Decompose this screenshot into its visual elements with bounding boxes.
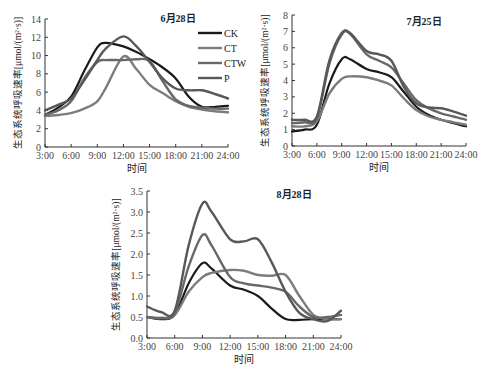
x-tick-label: 12:00 xyxy=(355,149,378,160)
x-tick-label: 9:00 xyxy=(333,149,351,160)
y-tick-label: 2 xyxy=(36,123,41,134)
y-tick-label: 1.5 xyxy=(131,270,144,281)
x-tick-label: 15:00 xyxy=(246,341,269,352)
y-axis-label: 生态系统呼吸速率[μmol/(m²·s)] xyxy=(110,198,122,330)
x-tick-label: 18:00 xyxy=(164,150,187,161)
y-tick-label: 2.0 xyxy=(131,249,144,260)
x-tick-label: 21:00 xyxy=(430,149,453,160)
x-tick-label: 6:00 xyxy=(308,149,326,160)
x-axis-label: 时间 xyxy=(127,162,147,174)
x-tick-label: 18:00 xyxy=(274,341,297,352)
x-tick-label: 9:00 xyxy=(88,150,106,161)
x-tick-label: 15:00 xyxy=(380,149,403,160)
y-tick-label: 4 xyxy=(36,105,41,116)
chart-2: 0123456783:006:009:0012:0015:0018:0021:0… xyxy=(259,10,477,174)
legend-label-ct: CT xyxy=(224,43,237,54)
y-tick-label: 3.5 xyxy=(131,186,144,197)
x-axis-label: 时间 xyxy=(234,353,254,365)
x-tick-label: 6:00 xyxy=(62,150,80,161)
y-tick-label: 12 xyxy=(31,32,41,43)
chart-date-title: 6月28日 xyxy=(161,13,196,24)
y-tick-label: 14 xyxy=(31,14,41,25)
y-tick-label: 3.0 xyxy=(131,207,144,218)
x-tick-label: 9:00 xyxy=(194,341,212,352)
x-tick-label: 3:00 xyxy=(138,341,156,352)
x-tick-label: 3:00 xyxy=(283,149,301,160)
x-tick-label: 12:00 xyxy=(219,341,242,352)
x-tick-label: 3:00 xyxy=(36,150,54,161)
legend-label-ck: CK xyxy=(224,28,239,39)
y-tick-label: 1 xyxy=(283,124,288,135)
x-tick-label: 12:00 xyxy=(112,150,135,161)
legend-label-p: P xyxy=(224,73,230,84)
y-tick-label: 2 xyxy=(283,108,288,119)
y-tick-label: 10 xyxy=(31,50,41,61)
x-tick-label: 6:00 xyxy=(166,341,184,352)
x-tick-label: 21:00 xyxy=(190,150,213,161)
series-line-ct xyxy=(292,76,466,126)
y-tick-label: 8 xyxy=(283,10,288,21)
y-tick-label: 6 xyxy=(283,42,288,53)
y-axis-label: 生态系统呼吸速率[μmol/(m²·s)] xyxy=(259,14,271,146)
x-tick-label: 21:00 xyxy=(302,341,325,352)
chart-3: 0.00.51.01.52.02.53.03.53:006:009:0012:0… xyxy=(110,186,352,366)
chart-1: 024681012143:006:009:0012:0015:0018:0021… xyxy=(12,13,239,174)
chart-date-title: 8月28日 xyxy=(277,189,312,200)
y-tick-label: 0.5 xyxy=(131,312,144,323)
y-tick-label: 3 xyxy=(283,91,288,102)
legend-label-ctw: CTW xyxy=(224,58,247,69)
chart-date-title: 7月25日 xyxy=(407,16,442,27)
series-line-p xyxy=(292,30,466,122)
y-axis-label: 生态系统呼吸速率[μmol/(m²·s)] xyxy=(12,17,24,149)
y-tick-label: 2.5 xyxy=(131,228,144,239)
x-axis-label: 时间 xyxy=(369,161,389,173)
series-line-p xyxy=(147,202,341,322)
y-tick-label: 6 xyxy=(36,87,41,98)
y-tick-label: 7 xyxy=(283,26,288,37)
y-tick-label: 8 xyxy=(36,68,41,79)
legend: CKCTCTWP xyxy=(198,28,247,84)
x-tick-label: 15:00 xyxy=(138,150,161,161)
y-tick-label: 5 xyxy=(283,59,288,70)
x-tick-label: 24:00 xyxy=(455,149,478,160)
x-tick-label: 24:00 xyxy=(330,341,353,352)
x-tick-label: 24:00 xyxy=(217,150,240,161)
y-tick-label: 1.0 xyxy=(131,291,144,302)
chart-figure: 024681012143:006:009:0012:0015:0018:0021… xyxy=(0,0,493,373)
series-line-ctw xyxy=(45,59,228,115)
x-tick-label: 18:00 xyxy=(405,149,428,160)
y-tick-label: 4 xyxy=(283,75,288,86)
